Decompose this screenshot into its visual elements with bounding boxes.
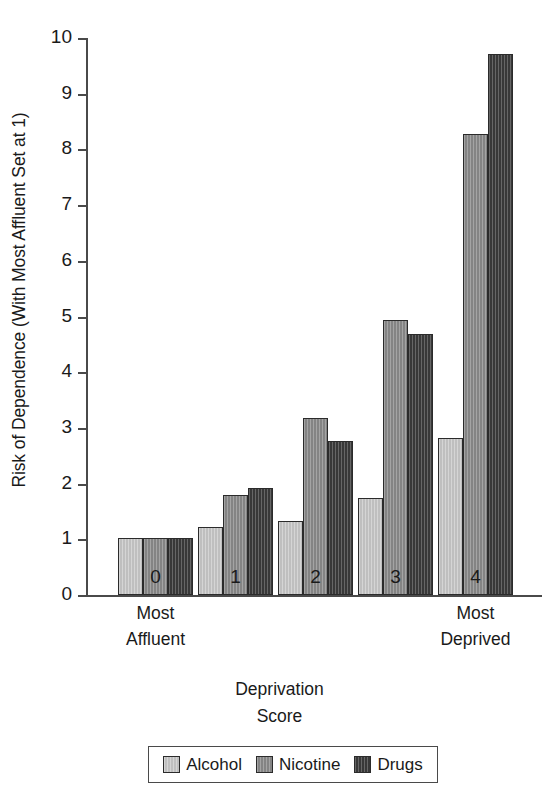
most-affluent-label-line-1: Most [96,600,216,626]
nicotine-swatch [256,756,273,773]
alcohol-swatch [163,756,180,773]
y-axis-title: Risk of Dependence (With Most Affluent S… [0,0,38,600]
y-axis-tick-label: 2 [61,472,72,494]
legend-label-alcohol: Alcohol [186,755,242,775]
y-axis-tick-label: 8 [61,137,72,159]
x-axis-tick-label-2: 2 [276,566,356,588]
chart-figure: Risk of Dependence (With Most Affluent S… [0,0,559,803]
y-axis-tick: 2 [78,484,86,486]
y-axis-tick-label: 4 [61,360,72,382]
y-axis-tick-label: 7 [61,193,72,215]
y-axis-tick-label: 10 [51,26,72,48]
x-axis-title-line-2: Score [0,703,559,730]
bar-nicotine-4 [463,134,488,595]
chart-legend: AlcoholNicotineDrugs [148,746,438,783]
y-axis-tick-label: 3 [61,416,72,438]
x-axis-tick-label-3: 3 [356,566,436,588]
most-deprived-label: MostDeprived [416,600,536,652]
y-axis-tick: 7 [78,205,86,207]
most-deprived-label-line-1: Most [416,600,536,626]
drugs-swatch [354,756,371,773]
most-affluent-label-line-2: Affluent [96,626,216,652]
x-axis-tick-label-4: 4 [436,566,516,588]
legend-item-drugs[interactable]: Drugs [354,755,422,775]
legend-label-nicotine: Nicotine [279,755,340,775]
y-axis-tick: 9 [78,94,86,96]
bar-nicotine-3 [383,320,408,595]
y-axis-tick: 8 [78,149,86,151]
y-axis-tick: 3 [78,428,86,430]
y-axis-tick-label: 6 [61,249,72,271]
most-deprived-label-line-2: Deprived [416,626,536,652]
x-axis-line [86,595,542,597]
bar-drugs-3 [408,334,433,595]
plot-area: 012345678910 [86,38,541,595]
y-axis-tick: 4 [78,372,86,374]
bar-drugs-4 [488,54,513,595]
x-axis-tick-label-1: 1 [196,566,276,588]
y-axis-tick: 10 [78,38,86,40]
y-axis-tick-label: 1 [61,527,72,549]
legend-label-drugs: Drugs [377,755,422,775]
y-axis-tick-label: 9 [61,82,72,104]
x-axis-title: Deprivation Score [0,676,559,730]
y-axis-tick: 0 [78,595,86,597]
y-axis-tick: 5 [78,317,86,319]
x-axis-title-line-1: Deprivation [0,676,559,703]
x-axis-tick-label-0: 0 [116,566,196,588]
y-axis-tick-label: 5 [61,305,72,327]
y-axis-tick-label: 0 [61,583,72,605]
legend-item-alcohol[interactable]: Alcohol [163,755,242,775]
y-axis-tick: 1 [78,539,86,541]
y-axis-line [86,38,88,596]
most-affluent-label: MostAffluent [96,600,216,652]
y-axis-tick: 6 [78,261,86,263]
legend-item-nicotine[interactable]: Nicotine [256,755,340,775]
